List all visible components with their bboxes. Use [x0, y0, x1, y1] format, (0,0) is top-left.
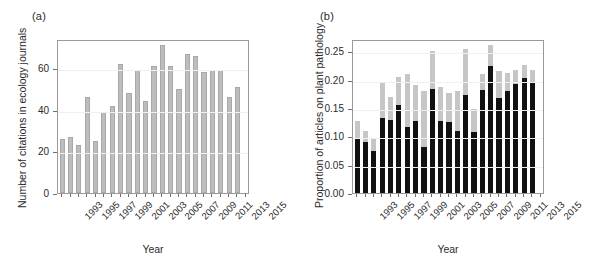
bar: [118, 64, 123, 193]
gridline: [58, 112, 248, 113]
x-axis-tick: [195, 194, 196, 197]
x-axis-tick: [423, 194, 424, 197]
bar: [185, 54, 190, 193]
panel-a-x-axis-title: Year: [57, 243, 249, 255]
bar: [496, 71, 501, 193]
figure-two-panel-bar-charts: (a) Number of citations in ecology journ…: [0, 0, 598, 269]
x-axis-tick: [161, 194, 162, 197]
x-axis-tick: [440, 194, 441, 197]
x-axis-tick: [406, 194, 407, 197]
x-axis-tick: [506, 194, 507, 197]
x-axis-tick: [136, 194, 137, 197]
bar-segment-upper: [413, 85, 418, 120]
x-axis-tick: [448, 194, 449, 197]
bar: [421, 91, 426, 193]
bar-segment-lower: [480, 90, 485, 193]
bar-segment-upper: [446, 93, 451, 122]
bar-segment-lower: [522, 78, 527, 193]
bar-segment-upper: [471, 109, 476, 132]
bar: [126, 93, 131, 193]
bar-segment-upper: [355, 121, 360, 138]
bar: [471, 109, 476, 193]
bar: [176, 89, 181, 193]
bar: [480, 74, 485, 193]
y-axis-tick-label: 0.05: [310, 160, 344, 171]
panel-a-label: (a): [32, 10, 46, 22]
bar-segment-upper: [430, 51, 435, 88]
bar-segment-upper: [530, 70, 535, 82]
bar: [388, 97, 393, 193]
y-axis-tick-label: 0.25: [310, 46, 344, 57]
x-axis-tick: [515, 194, 516, 197]
panel-b-bars: [353, 41, 543, 193]
x-axis-tick: [228, 194, 229, 197]
x-axis-tick: [211, 194, 212, 197]
x-axis-tick: [70, 194, 71, 197]
bar: [143, 101, 148, 193]
bar: [530, 70, 535, 193]
bar: [430, 51, 435, 193]
y-axis-tick: [348, 81, 352, 82]
x-axis-tick: [523, 194, 524, 197]
gridline: [58, 70, 248, 71]
bar-segment-lower: [496, 98, 501, 193]
bar: [396, 77, 401, 193]
bar-segment-lower: [388, 120, 393, 193]
bar-segment-lower: [446, 122, 451, 193]
bar: [513, 70, 518, 193]
y-axis-tick: [53, 111, 57, 112]
panel-b-x-axis-title: Year: [352, 243, 544, 255]
bar: [93, 141, 98, 193]
x-axis-tick: [178, 194, 179, 197]
y-axis-tick-label: 0.20: [310, 75, 344, 86]
y-axis-tick: [348, 194, 352, 195]
panel-a-bars: [58, 41, 248, 193]
bar-segment-upper: [496, 71, 501, 98]
x-axis-tick: [86, 194, 87, 197]
bar-segment-upper: [463, 49, 468, 95]
y-axis-tick-label: 0.10: [310, 131, 344, 142]
bar-segment-lower: [421, 147, 426, 193]
bar: [355, 121, 360, 193]
bar: [405, 74, 410, 193]
x-axis-tick: [498, 194, 499, 197]
y-axis-tick: [348, 109, 352, 110]
x-axis-tick: [120, 194, 121, 197]
bar-segment-upper: [488, 45, 493, 67]
bar: [110, 106, 115, 193]
panel-b-plot-area: [352, 40, 544, 194]
x-axis-tick: [95, 194, 96, 197]
y-axis-tick: [53, 194, 57, 195]
x-axis-tick: [236, 194, 237, 197]
bar: [488, 45, 493, 193]
x-axis-tick: [170, 194, 171, 197]
bar: [160, 45, 165, 193]
bar-segment-lower: [380, 118, 385, 193]
x-axis-tick: [356, 194, 357, 197]
x-axis-tick: [373, 194, 374, 197]
y-axis-tick-label: 60: [15, 63, 49, 74]
y-axis-tick: [53, 69, 57, 70]
x-axis-tick: [220, 194, 221, 197]
bar: [193, 56, 198, 193]
bar-segment-lower: [438, 121, 443, 193]
bar: [60, 139, 65, 193]
x-axis-tick: [431, 194, 432, 197]
y-axis-tick-label: 20: [15, 146, 49, 157]
x-axis-tick: [111, 194, 112, 197]
panel-b-label: (b): [320, 10, 334, 22]
gridline: [353, 82, 543, 83]
x-axis-tick: [365, 194, 366, 197]
x-axis-tick: [381, 194, 382, 197]
panel-a: (a) Number of citations in ecology journ…: [0, 0, 299, 269]
bar-segment-upper: [438, 87, 443, 121]
x-axis-tick: [78, 194, 79, 197]
x-axis-tick: [456, 194, 457, 197]
bar: [151, 66, 156, 193]
y-axis-tick: [348, 137, 352, 138]
bar-segment-lower: [471, 132, 476, 193]
bar: [210, 70, 215, 193]
bar: [68, 137, 73, 193]
x-axis-tick: [128, 194, 129, 197]
bar: [522, 64, 527, 193]
